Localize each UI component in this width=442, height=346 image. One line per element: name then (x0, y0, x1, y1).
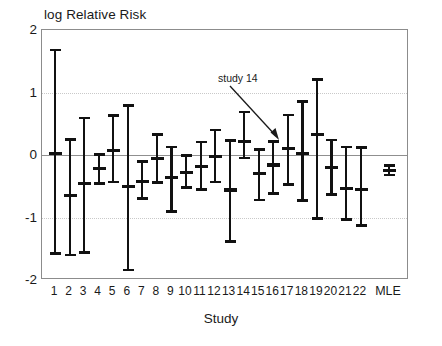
error-bar-cap-upper (254, 148, 265, 151)
x-tick-11: 11 (193, 284, 205, 298)
error-bar-cap-lower (196, 188, 207, 191)
error-bar-cap-lower (356, 224, 367, 227)
error-bar-cap-upper (297, 100, 308, 103)
x-tick-16: 16 (266, 284, 279, 298)
chart-container: log Relative Risk 210-1-2 study 14 12345… (0, 0, 442, 346)
y-tick-neg2: -2 (7, 272, 37, 287)
error-bar-cap-upper (65, 138, 76, 141)
error-bar-cap-lower (283, 183, 294, 186)
x-tick-15: 15 (251, 284, 264, 298)
x-tick-14: 14 (236, 284, 249, 298)
error-bar-cap-lower (297, 199, 308, 202)
x-tick-19: 19 (309, 284, 322, 298)
error-bar-cap-upper (50, 49, 61, 52)
gridline-positive-one (42, 93, 407, 94)
x-tick-20: 20 (324, 284, 337, 298)
x-tick-9: 9 (167, 284, 174, 298)
error-bar-cap-upper (123, 104, 134, 107)
error-bar-stem (345, 147, 347, 220)
y-tick-0: 0 (7, 147, 37, 162)
point-estimate-marker (325, 166, 338, 169)
error-bar-stem (83, 118, 85, 252)
error-bar-cap-lower (79, 251, 90, 254)
error-bar-cap-upper (196, 141, 207, 144)
y-tick-1: 1 (7, 84, 37, 99)
error-bar-cap-upper (312, 78, 323, 81)
point-estimate-marker (383, 169, 396, 172)
error-bar-cap-lower (384, 174, 395, 177)
point-estimate-marker (165, 176, 178, 179)
point-estimate-marker (49, 152, 62, 155)
error-bar-cap-lower (210, 181, 221, 184)
point-estimate-marker (311, 133, 324, 136)
x-tick-21: 21 (338, 284, 351, 298)
error-bar-cap-lower (326, 193, 337, 196)
point-estimate-marker (78, 182, 91, 185)
error-bar-stem (360, 148, 362, 226)
error-bar-cap-lower (341, 218, 352, 221)
error-bar-cap-upper (79, 117, 90, 120)
point-estimate-marker (180, 171, 193, 174)
point-estimate-marker (253, 172, 266, 175)
error-bar-cap-upper (166, 146, 177, 149)
error-bar-cap-upper (210, 129, 221, 132)
x-tick-22: 22 (353, 284, 366, 298)
error-bar-cap-upper (268, 140, 279, 143)
error-bar-cap-upper (239, 111, 250, 114)
error-bar-cap-upper (94, 153, 105, 156)
x-tick-6: 6 (123, 284, 130, 298)
error-bar-cap-lower (108, 181, 119, 184)
point-estimate-marker (296, 152, 309, 155)
error-bar-cap-lower (225, 240, 236, 243)
error-bar-cap-upper (152, 133, 163, 136)
x-tick-3: 3 (80, 284, 87, 298)
error-bar-cap-lower (254, 199, 265, 202)
x-axis-tick-labels: 12345678910111213141516171819202122MLE (41, 284, 408, 302)
x-tick-1: 1 (51, 284, 58, 298)
plot-area: study 14 (41, 29, 408, 279)
point-estimate-marker (151, 157, 164, 160)
x-tick-18: 18 (295, 284, 308, 298)
x-axis-title: Study (0, 311, 442, 326)
point-estimate-marker (282, 147, 295, 150)
point-estimate-marker (64, 194, 77, 197)
error-bar-cap-upper (225, 139, 236, 142)
x-tick-2: 2 (65, 284, 72, 298)
x-tick-5: 5 (109, 284, 116, 298)
error-bar-cap-lower (166, 210, 177, 213)
error-bar-cap-lower (137, 197, 148, 200)
error-bar-cap-lower (123, 269, 134, 272)
point-estimate-marker (224, 188, 237, 191)
error-bar-stem (316, 79, 318, 218)
error-bar-cap-upper (356, 146, 367, 149)
error-bar-cap-upper (283, 114, 294, 117)
y-tick-neg1: -1 (7, 209, 37, 224)
point-estimate-marker (238, 140, 251, 143)
y-tick-2: 2 (7, 22, 37, 37)
error-bar-cap-upper (341, 146, 352, 149)
x-tick-8: 8 (153, 284, 160, 298)
error-bar-cap-lower (65, 254, 76, 257)
error-bar-stem (272, 141, 274, 194)
error-bar-cap-lower (181, 186, 192, 189)
x-tick-12: 12 (207, 284, 220, 298)
error-bar-cap-upper (384, 164, 395, 167)
error-bar-cap-lower (312, 217, 323, 220)
annotation-study-14-label: study 14 (218, 72, 258, 84)
x-tick-mle: MLE (375, 284, 401, 298)
point-estimate-marker (136, 180, 149, 183)
error-bar-cap-lower (94, 182, 105, 185)
y-axis-tick-labels: 210-1-2 (3, 29, 37, 279)
gridline-negative-one (42, 218, 407, 219)
error-bar-cap-lower (268, 192, 279, 195)
point-estimate-marker (107, 149, 120, 152)
error-bar-cap-upper (326, 139, 337, 142)
point-estimate-marker (122, 185, 135, 188)
y-axis-title: log Relative Risk (44, 7, 146, 22)
point-estimate-marker (195, 165, 208, 168)
error-bar-stem (301, 101, 303, 200)
error-bar-stem (243, 112, 245, 158)
point-estimate-marker (267, 163, 280, 166)
error-bar-cap-upper (108, 114, 119, 117)
x-tick-17: 17 (280, 284, 293, 298)
